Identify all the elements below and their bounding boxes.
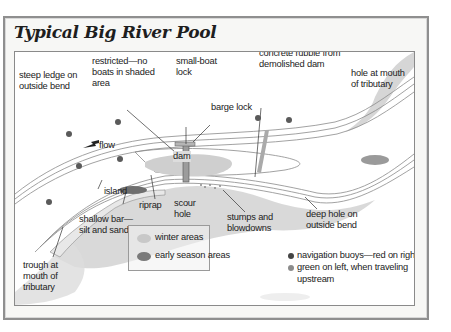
- label-line: restricted—no: [92, 56, 155, 67]
- label-line: stumps and: [227, 212, 273, 223]
- label-flow: flow: [99, 140, 115, 151]
- label-dam: dam: [173, 151, 191, 162]
- label-line: shallow bar—: [79, 214, 133, 225]
- label-line: outside bend: [306, 220, 357, 231]
- legend-early: early season areas: [155, 250, 230, 261]
- river-map-panel: restricted—no boats in shaded area small…: [14, 51, 415, 306]
- label-stumps: stumps and blowdowns: [227, 212, 273, 234]
- label-line: scour: [174, 198, 196, 209]
- label-line: concrete rubble from: [259, 51, 340, 59]
- deep-hole-shade: [361, 155, 389, 165]
- dam-structure: [183, 144, 189, 182]
- green-buoy-icon: [288, 265, 294, 271]
- label-line: silt and sand: [79, 225, 133, 236]
- legend-winter: winter areas: [155, 232, 203, 243]
- label-line: of tributary: [351, 79, 405, 90]
- bottom-shade: [260, 293, 310, 301]
- shading-legend: winter areas early season areas: [128, 225, 210, 271]
- label-riprap: riprap: [139, 200, 162, 211]
- label-barge-lock: barge lock: [211, 102, 252, 113]
- label-line: area: [92, 78, 155, 89]
- label-line: hole: [174, 209, 196, 220]
- label-line: lock: [176, 67, 217, 78]
- label-restricted: restricted—no boats in shaded area: [92, 56, 155, 89]
- label-line: blowdowns: [227, 223, 273, 234]
- label-steep-ledge: steep ledge on outside bend: [19, 70, 77, 92]
- label-deep-hole: deep hole on outside bend: [306, 209, 357, 231]
- buoy-note-line1: navigation buoys—red on right,: [297, 250, 415, 261]
- barge-lock-structure: [175, 142, 195, 146]
- label-line: mouth of: [23, 271, 58, 282]
- buoy-note-line2: green on left, when traveling: [297, 262, 408, 273]
- red-buoy-icon: [288, 253, 294, 259]
- label-line: deep hole on: [306, 209, 357, 220]
- label-island: island: [104, 186, 127, 197]
- flow-arrow-icon: [83, 140, 99, 148]
- label-concrete-rubble: concrete rubble from demolished dam: [259, 51, 340, 70]
- label-small-boat-lock: small-boat lock: [176, 56, 217, 78]
- label-line: tributary: [23, 282, 58, 293]
- label-line: outside bend: [19, 81, 77, 92]
- label-hole-mouth-tributary: hole at mouth of tributary: [351, 68, 405, 90]
- buoy-note-line3: upstream: [297, 274, 334, 285]
- label-shallow-bar: shallow bar— silt and sand: [79, 214, 133, 236]
- label-trough: trough at mouth of tributary: [23, 260, 58, 293]
- label-line: demolished dam: [259, 59, 340, 70]
- label-line: steep ledge on: [19, 70, 77, 81]
- winter-swatch: [137, 234, 151, 243]
- label-line: hole at mouth: [351, 68, 405, 79]
- early-season-swatch: [137, 252, 151, 261]
- label-line: boats in shaded: [92, 67, 155, 78]
- label-scour-hole: scour hole: [174, 198, 196, 220]
- figure-title: Typical Big River Pool: [14, 22, 216, 42]
- label-line: small-boat: [176, 56, 217, 67]
- label-line: trough at: [23, 260, 58, 271]
